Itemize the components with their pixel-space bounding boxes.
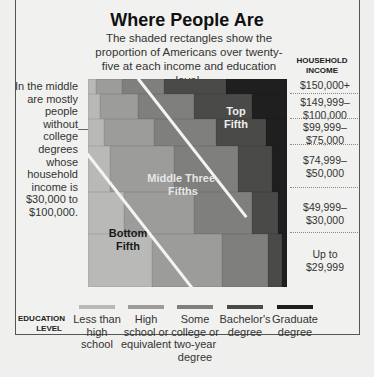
legend-label: Some college or two-year degree (168, 313, 222, 363)
region-label-middle: Middle Three-Fifths (143, 172, 223, 198)
mosaic-cell (252, 94, 287, 119)
chart-title: Where People Are (0, 10, 374, 31)
income-divider (290, 93, 358, 94)
income-axis-title: HOUSEHOLD INCOME (286, 56, 358, 76)
mosaic-cell (164, 79, 226, 94)
mosaic-cell (266, 119, 287, 146)
legend-item-high-school: High school or equivalent (119, 305, 173, 351)
income-label-0: $150,000+ (294, 79, 356, 92)
mosaic-cell (100, 94, 138, 119)
legend-item-less-than-high-school: Less than high school (70, 305, 124, 351)
region-label-bottom: Bottom Fifth (106, 227, 150, 253)
mosaic-cell (238, 146, 272, 192)
mosaic-cell (88, 79, 96, 94)
income-divider (290, 187, 358, 188)
mosaic-cell (88, 94, 100, 119)
mosaic-cell (104, 119, 154, 146)
legend-label: Graduate degree (268, 313, 322, 338)
mosaic-cell (282, 234, 287, 287)
income-label-3: $74,999–$50,000 (299, 154, 351, 179)
mosaic-cell (252, 192, 278, 234)
left-annotation: In the middle are mostly people without … (14, 80, 78, 219)
mosaic-cell (226, 79, 287, 94)
legend-label: Bachelor's degree (218, 313, 272, 338)
legend-item-graduate: Graduate degree (268, 305, 322, 338)
income-label-5: Up to $29,999 (299, 248, 351, 273)
legend-swatch (79, 305, 115, 309)
mosaic-chart: Top Fifth Middle Three-Fifths Bottom Fif… (88, 79, 287, 287)
education-axis-title: EDUCATION LEVEL (18, 314, 62, 334)
legend-label: Less than high school (70, 313, 124, 351)
mosaic-cell (268, 234, 282, 287)
legend-swatch (177, 305, 213, 309)
legend-swatch (277, 305, 313, 309)
mosaic-cell (278, 192, 287, 234)
legend-item-bachelors: Bachelor's degree (218, 305, 272, 338)
income-label-2: $99,999–$75,000 (299, 121, 351, 146)
mosaic-cell (272, 146, 287, 192)
income-divider (290, 118, 358, 119)
legend-item-some-college: Some college or two-year degree (168, 305, 222, 363)
income-label-4: $49,999–$30,000 (299, 201, 351, 226)
legend-label: High school or equivalent (119, 313, 173, 351)
legend-swatch (227, 305, 263, 309)
mosaic-cell (96, 79, 122, 94)
mosaic-cell (88, 119, 104, 146)
income-divider (290, 232, 358, 233)
region-label-top: Top Fifth (216, 105, 256, 131)
legend-swatch (128, 305, 164, 309)
mosaic-cell (222, 234, 268, 287)
annotation-pointer (78, 129, 88, 130)
income-divider (290, 144, 358, 145)
